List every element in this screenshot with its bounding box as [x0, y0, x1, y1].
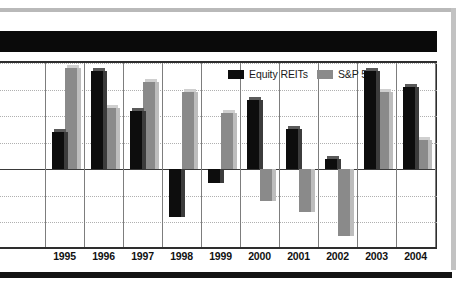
bar-sp-500-2002 [338, 169, 350, 235]
bar-equity-reits-1998 [169, 169, 181, 217]
bar-equity-reits-2004 [403, 87, 415, 169]
plot-area [0, 63, 437, 249]
bar-face [299, 169, 311, 212]
category-separator [162, 63, 163, 249]
x-tick-label-1999: 1999 [201, 250, 240, 262]
bar-side [350, 169, 354, 235]
bar-side [181, 169, 185, 217]
bar-equity-reits-2002 [325, 159, 337, 170]
bar-side [272, 169, 276, 201]
bar-side [103, 71, 107, 169]
x-tick-label-2003: 2003 [357, 250, 396, 262]
category-separator [357, 63, 358, 249]
bar-sp-500-1998 [182, 92, 194, 169]
chart-page: Equity REITs S&P 500 1995199619971998199… [0, 0, 456, 282]
page-edge-bottom-margin [0, 278, 456, 282]
bar-equity-reits-1999 [208, 169, 220, 182]
bar-side [64, 132, 68, 169]
gridline [0, 63, 437, 64]
bar-face [403, 87, 415, 169]
gridline [0, 196, 437, 197]
category-separator [435, 63, 436, 249]
bar-face [260, 169, 272, 201]
bar-equity-reits-2000 [247, 100, 259, 169]
bar-side [428, 140, 432, 169]
bar-face [338, 169, 350, 235]
bar-top [54, 129, 66, 132]
bar-sp-500-2001 [299, 169, 311, 212]
bar-face [52, 132, 64, 169]
bar-equity-reits-1995 [52, 132, 64, 169]
bar-side [77, 68, 81, 169]
bar-top [132, 108, 144, 111]
legend-swatch-black-icon [228, 70, 244, 79]
bar-face [91, 71, 103, 169]
bar-top [93, 68, 105, 71]
bar-top [379, 89, 391, 92]
x-tick-label-1998: 1998 [162, 250, 201, 262]
chart-container: Equity REITs S&P 500 [0, 61, 437, 247]
x-tick-label-1996: 1996 [84, 250, 123, 262]
bar-top [145, 79, 157, 82]
x-tick-label-2000: 2000 [240, 250, 279, 262]
category-separator [45, 63, 46, 249]
gridline [0, 222, 437, 223]
x-tick-label-1997: 1997 [123, 250, 162, 262]
x-tick-label-2001: 2001 [279, 250, 318, 262]
bar-top [366, 68, 378, 71]
legend-swatch-gray-icon [317, 70, 333, 79]
bar-top [418, 137, 430, 140]
bar-side [142, 111, 146, 169]
page-edge-top [0, 8, 456, 12]
bar-top [288, 126, 300, 129]
bar-face [325, 159, 337, 170]
legend-entry-equity-reits: Equity REITs [228, 68, 308, 80]
bar-top [184, 89, 196, 92]
bar-side [220, 169, 224, 182]
x-tick-label-2002: 2002 [318, 250, 357, 262]
bar-side [116, 108, 120, 169]
bar-side [311, 169, 315, 212]
category-separator [318, 63, 319, 249]
bar-top [327, 156, 339, 159]
x-tick-label-1995: 1995 [45, 250, 84, 262]
x-axis-line [0, 247, 437, 249]
category-separator [279, 63, 280, 249]
bar-equity-reits-1996 [91, 71, 103, 169]
bar-side [259, 100, 263, 169]
bar-face [247, 100, 259, 169]
bar-face [169, 169, 181, 217]
bar-equity-reits-2001 [286, 129, 298, 169]
bar-top [106, 105, 118, 108]
page-edge-right [451, 8, 456, 270]
bar-side [233, 113, 237, 169]
category-separator [123, 63, 124, 249]
x-axis-tick-labels: 1995199619971998199920002001200220032004 [0, 250, 437, 268]
category-separator [201, 63, 202, 249]
bar-equity-reits-1997 [130, 111, 142, 169]
bar-top [67, 65, 79, 68]
bar-face [286, 129, 298, 169]
bar-top [223, 110, 235, 113]
bar-side [376, 71, 380, 169]
bar-sp-500-1999 [221, 113, 233, 169]
bar-side [415, 87, 419, 169]
x-tick-label-2004: 2004 [396, 250, 435, 262]
bar-side [194, 92, 198, 169]
category-separator [240, 63, 241, 249]
category-separator [396, 63, 397, 249]
bar-face [182, 92, 194, 169]
bar-face [221, 113, 233, 169]
bar-equity-reits-2003 [364, 71, 376, 169]
bar-side [155, 82, 159, 170]
bar-side [337, 159, 341, 170]
bar-side [389, 92, 393, 169]
bar-top [249, 97, 261, 100]
legend-label-equity-reits: Equity REITs [249, 68, 308, 80]
chart-legend: Equity REITs S&P 500 [228, 68, 378, 80]
redacted-title-bar [0, 31, 437, 52]
bar-sp-500-2000 [260, 169, 272, 201]
category-separator [84, 63, 85, 249]
bar-top [405, 84, 417, 87]
bar-face [130, 111, 142, 169]
